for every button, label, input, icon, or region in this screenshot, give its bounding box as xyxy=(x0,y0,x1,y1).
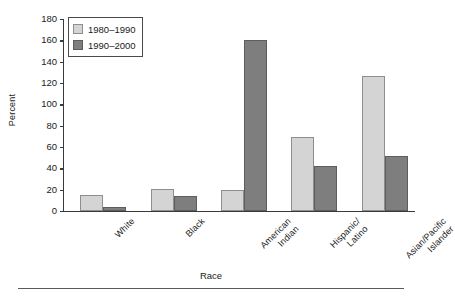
y-axis-tick-mark xyxy=(60,190,64,191)
legend-item: 1980–1990 xyxy=(73,21,136,37)
legend-item: 1990–2000 xyxy=(73,37,136,53)
y-axis-tick-label: 120 xyxy=(31,77,57,88)
y-axis-tick-label: 100 xyxy=(31,98,57,109)
x-axis-category-label: American Indian xyxy=(258,216,300,258)
y-axis-tick-mark xyxy=(60,211,64,212)
y-axis-tick-label: 160 xyxy=(31,34,57,45)
y-axis-tick-mark xyxy=(60,19,64,20)
chart-legend: 1980–19901990–2000 xyxy=(68,17,143,57)
legend-swatch-icon xyxy=(73,24,83,34)
bar xyxy=(291,137,314,211)
legend-label: 1980–1990 xyxy=(88,24,136,35)
x-axis-category-label: White xyxy=(113,216,137,240)
x-axis-category-label: Hispanic/ Latino xyxy=(328,216,370,258)
footer-rule xyxy=(18,288,404,289)
bar xyxy=(314,166,337,211)
bar xyxy=(362,76,385,211)
bar xyxy=(80,195,103,211)
x-axis-category-label: Asian/Pacific Islander xyxy=(403,216,455,268)
y-axis-tick-mark xyxy=(60,40,64,41)
y-axis-tick-mark xyxy=(60,62,64,63)
bar xyxy=(103,207,126,211)
bar xyxy=(221,190,244,211)
x-axis-category-label: Black xyxy=(183,216,206,239)
y-axis-tick-label: 40 xyxy=(31,162,57,173)
y-axis-tick-mark xyxy=(60,168,64,169)
y-axis-tick-label: 0 xyxy=(31,205,57,216)
y-axis-tick-label: 140 xyxy=(31,56,57,67)
y-axis-tick-mark xyxy=(60,83,64,84)
y-axis-tick-label: 180 xyxy=(31,13,57,24)
y-axis-tick-mark xyxy=(60,126,64,127)
y-axis-tick-label: 20 xyxy=(31,184,57,195)
legend-label: 1990–2000 xyxy=(88,40,136,51)
y-axis-tick-label: 80 xyxy=(31,120,57,131)
y-axis-title: Percent xyxy=(7,80,17,140)
bar xyxy=(151,189,174,211)
legend-swatch-icon xyxy=(73,40,83,50)
bar xyxy=(174,196,197,211)
bar xyxy=(385,156,408,211)
y-axis-tick-label: 60 xyxy=(31,141,57,152)
y-axis-tick-mark xyxy=(60,147,64,148)
y-axis-tick-mark xyxy=(60,104,64,105)
bar xyxy=(244,40,267,211)
x-axis-title: Race xyxy=(0,270,422,281)
